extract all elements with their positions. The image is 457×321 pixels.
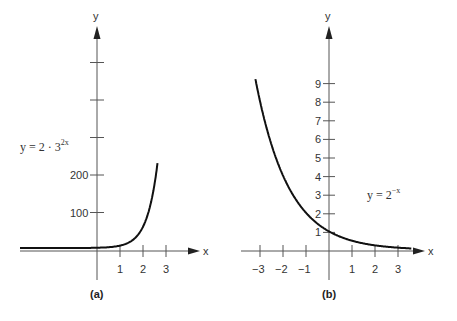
y-tick-label: 5	[315, 152, 321, 164]
curve-a	[20, 163, 158, 248]
y-tick-label: 2	[315, 208, 321, 220]
x-tick-label: −1	[298, 263, 311, 275]
y-tick-label: 3	[315, 189, 321, 201]
y-tick-label: 6	[315, 133, 321, 145]
figure: x y 123100200 y = 2 · 32x (a) x y −3−2−1…	[0, 0, 457, 321]
y-tick-label: 4	[315, 171, 321, 183]
y-tick-label: 200	[70, 169, 88, 181]
x-axis-label: x	[428, 245, 434, 257]
y-axis-label: y	[93, 10, 99, 22]
caption-b: (b)	[322, 288, 336, 300]
panel-b: x y −3−2−1123123456789 y = 2−x (b)	[241, 10, 434, 300]
y-tick-label: 8	[315, 96, 321, 108]
y-tick-label: 1	[315, 226, 321, 238]
y-axis-label: y	[325, 10, 331, 22]
caption-a: (a)	[90, 288, 104, 300]
x-tick-label: 2	[372, 263, 378, 275]
x-tick-label: 1	[349, 263, 355, 275]
panel-a: x y 123100200 y = 2 · 32x (a)	[20, 10, 209, 300]
x-tick-label: 2	[140, 263, 146, 275]
equation-a: y = 2 · 32x	[20, 138, 69, 154]
y-axis-arrow-icon	[326, 26, 333, 39]
x-tick-label: 3	[395, 263, 401, 275]
x-axis-arrow-icon	[188, 248, 200, 255]
equation-b: y = 2−x	[367, 186, 400, 202]
y-tick-label: 7	[315, 115, 321, 127]
y-tick-label: 9	[315, 78, 321, 90]
x-axis-arrow-icon	[413, 248, 425, 255]
x-tick-label: 1	[117, 263, 123, 275]
x-tick-label: −3	[252, 263, 265, 275]
x-axis-label: x	[203, 245, 209, 257]
x-tick-label: 3	[163, 263, 169, 275]
x-tick-label: −2	[275, 263, 288, 275]
curve-b	[255, 79, 411, 248]
y-axis-arrow-icon	[94, 26, 101, 39]
y-tick-label: 100	[70, 207, 88, 219]
